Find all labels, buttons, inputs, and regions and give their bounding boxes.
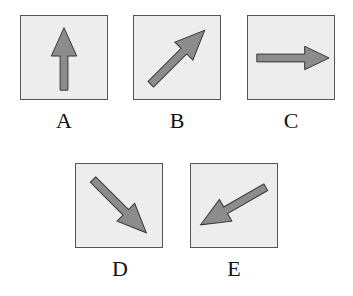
arrow-up-right-icon: [134, 16, 220, 99]
option-d-label: D: [100, 256, 140, 282]
option-e-label: E: [214, 256, 254, 282]
option-b-label: B: [157, 108, 197, 134]
option-a-box[interactable]: [20, 15, 108, 100]
option-d-box[interactable]: [75, 163, 163, 248]
option-e-box[interactable]: [190, 163, 278, 248]
arrow-down-left-icon: [191, 164, 277, 247]
option-b-box[interactable]: [133, 15, 221, 100]
arrow-right-icon: [248, 16, 334, 99]
option-c-box[interactable]: [247, 15, 335, 100]
arrow-up-icon: [21, 16, 107, 99]
option-a-label: A: [44, 108, 84, 134]
option-c-label: C: [271, 108, 311, 134]
arrow-down-right-icon: [76, 164, 162, 247]
